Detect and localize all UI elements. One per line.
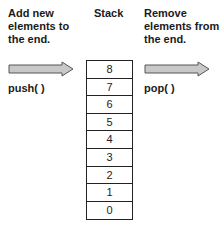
stack-container: 8 7 6 5 4 3 2 1 0 bbox=[86, 60, 133, 220]
push-description-line: Add new bbox=[8, 7, 69, 20]
stack-cell: 8 bbox=[87, 61, 132, 79]
stack-cell: 0 bbox=[87, 202, 132, 220]
push-description: Add new elements to the end. bbox=[8, 7, 69, 46]
stack-cell: 7 bbox=[87, 79, 132, 97]
pop-description-line: the end. bbox=[144, 33, 219, 46]
stack-title: Stack bbox=[94, 7, 123, 20]
push-arrow-icon bbox=[8, 61, 74, 77]
stack-cell: 5 bbox=[87, 114, 132, 132]
stack-cell: 4 bbox=[87, 131, 132, 149]
stack-cell: 2 bbox=[87, 167, 132, 185]
pop-description-line: elements from bbox=[144, 20, 219, 33]
push-operation-label: push( ) bbox=[8, 82, 45, 94]
pop-description-line: Remove bbox=[144, 7, 219, 20]
push-description-line: the end. bbox=[8, 33, 69, 46]
pop-arrow-icon bbox=[144, 61, 210, 77]
stack-cell: 1 bbox=[87, 184, 132, 202]
pop-description: Remove elements from the end. bbox=[144, 7, 219, 46]
pop-operation-label: pop( ) bbox=[144, 82, 175, 94]
stack-cell: 3 bbox=[87, 149, 132, 167]
push-description-line: elements to bbox=[8, 20, 69, 33]
stack-cell: 6 bbox=[87, 96, 132, 114]
